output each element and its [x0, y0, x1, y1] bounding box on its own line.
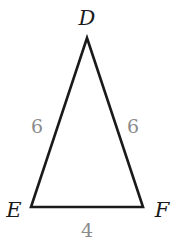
vertex-label-f: F	[154, 198, 171, 222]
side-label-df: 6	[127, 115, 139, 137]
vertex-label-e: E	[5, 198, 21, 222]
vertex-label-d: D	[78, 6, 96, 30]
triangle-diagram: D E F 6 6 4	[0, 0, 180, 251]
side-label-ef: 4	[81, 219, 93, 241]
side-label-de: 6	[31, 115, 43, 137]
